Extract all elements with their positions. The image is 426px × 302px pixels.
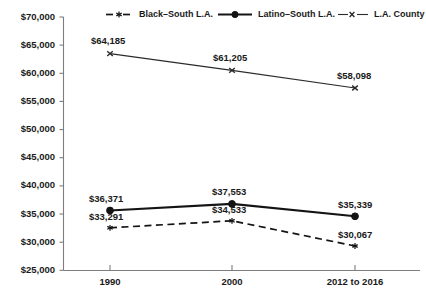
line-chart: Black–South L.A. Latino–South L.A. L.A. …	[0, 0, 426, 302]
y-tick-label: $55,000	[21, 95, 55, 106]
data-label: $61,205	[213, 52, 248, 63]
legend-item-la-county[interactable]: L.A. County	[338, 9, 425, 19]
y-tick-label: $65,000	[21, 39, 55, 50]
legend-label-la-county: L.A. County	[374, 9, 425, 19]
x-tick-label: 2012 to 2016	[327, 276, 384, 287]
y-tick-label: $25,000	[21, 264, 55, 275]
series-la-county: $64,185 $61,205 $58,098	[91, 35, 371, 90]
data-label: $58,098	[337, 70, 371, 81]
y-tick-label: $45,000	[21, 151, 55, 162]
y-axis: $70,000 $65,000 $60,000 $55,000 $50,000 …	[21, 11, 64, 275]
y-tick-label: $50,000	[21, 123, 55, 134]
y-tick-label: $40,000	[21, 179, 55, 190]
data-label: $30,067	[338, 229, 372, 240]
x-tick-label: 1990	[99, 276, 120, 287]
y-tick-label: $70,000	[21, 11, 55, 22]
data-label: $64,185	[91, 35, 126, 46]
legend-label-latino-south-la: Latino–South L.A.	[258, 9, 335, 19]
y-tick-label: $60,000	[21, 67, 55, 78]
data-label: $37,553	[212, 186, 246, 197]
star-icon	[116, 12, 121, 18]
series-line-black-south-la	[110, 221, 355, 246]
legend-item-black-south-la[interactable]: Black–South L.A.	[106, 9, 213, 19]
data-label: $33,291	[89, 211, 124, 222]
x-axis: 1990 2000 2012 to 2016	[64, 265, 421, 287]
legend-label-black-south-la: Black–South L.A.	[139, 9, 213, 19]
series-black-south-la: $33,291 $34,533 $30,067	[89, 204, 372, 249]
y-tick-label: $30,000	[21, 236, 55, 247]
legend-item-latino-south-la[interactable]: Latino–South L.A.	[218, 9, 335, 19]
chart-canvas: Black–South L.A. Latino–South L.A. L.A. …	[0, 0, 426, 302]
x-tick-label: 2000	[221, 276, 242, 287]
data-point-marker	[352, 213, 359, 220]
chart-legend: Black–South L.A. Latino–South L.A. L.A. …	[106, 9, 425, 19]
data-label: $34,533	[212, 204, 246, 215]
x-marker-icon	[350, 12, 355, 17]
data-label: $35,339	[338, 199, 372, 210]
data-label: $36,371	[89, 193, 124, 204]
y-tick-label: $35,000	[21, 208, 55, 219]
circle-marker-icon	[232, 11, 238, 17]
